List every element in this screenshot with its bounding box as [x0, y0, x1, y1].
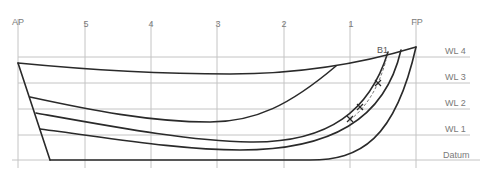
station-label-ap: AP: [12, 18, 24, 27]
waterline-label-2: WL 2: [445, 99, 466, 108]
station-label-1: 1: [348, 20, 353, 29]
station-label-5: 5: [83, 20, 88, 29]
section-line-upper: [30, 66, 336, 122]
datum-label: Datum: [443, 151, 470, 160]
station-lines: [18, 19, 416, 168]
buttock-label-b1: B1: [377, 46, 388, 55]
station-label-4: 4: [148, 20, 153, 29]
station-label-fp: FP: [411, 18, 423, 27]
station-label-2: 2: [281, 20, 286, 29]
lines-drawing: AP 5 4 3 2 1 FP B1 WL 4 WL 3 WL 2 WL 1 D…: [0, 0, 494, 178]
station-label-3: 3: [215, 20, 220, 29]
waterline-label-4: WL 4: [445, 47, 466, 56]
waterline-label-3: WL 3: [445, 73, 466, 82]
waterline-label-1: WL 1: [445, 125, 466, 134]
transom-line: [18, 63, 50, 160]
